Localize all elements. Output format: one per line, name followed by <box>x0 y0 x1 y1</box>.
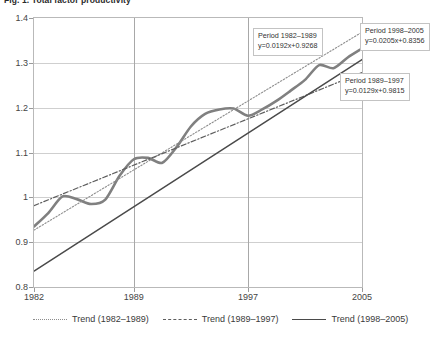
y-tick-label: 0.9 <box>0 237 28 247</box>
legend-swatch-solid <box>292 316 326 323</box>
series-line <box>34 32 362 230</box>
annotation-ann-1998-2005: Period 1998–2005y=0.0205x+0.8356 <box>360 23 430 51</box>
annotation-period-label: Period 1982–1989 <box>258 31 318 41</box>
annotation-period-label: Period 1998–2005 <box>365 26 425 36</box>
legend-swatch-dash-dot <box>163 316 197 323</box>
x-tick-mark <box>248 288 249 292</box>
plot-inner <box>34 18 362 287</box>
series-line <box>34 60 362 271</box>
y-tick-label: 1 <box>0 192 28 202</box>
annotation-equation: y=0.0205x+0.8356 <box>365 36 425 46</box>
figure-title: Fig. 1. Total factor productivity <box>4 0 131 5</box>
legend-label: Trend (1989–1997) <box>202 314 279 324</box>
y-tick-label: 1.4 <box>0 13 28 23</box>
x-tick-mark <box>362 288 363 292</box>
annotation-ann-1989-1997: Period 1989–1997y=0.0129x+0.9815 <box>340 73 410 101</box>
y-tick-label: 0.8 <box>0 282 28 292</box>
x-tick-label: 1997 <box>238 292 258 302</box>
legend-swatch-dotted <box>33 316 67 323</box>
annotation-equation: y=0.0129x+0.9815 <box>345 86 405 96</box>
y-tick-label: 1.2 <box>0 103 28 113</box>
x-tick-label: 1982 <box>24 292 44 302</box>
series-line <box>34 73 362 206</box>
x-tick-label: 1989 <box>124 292 144 302</box>
x-tick-mark <box>134 288 135 292</box>
legend-item-3[interactable]: Trend (1998–2005) <box>292 314 408 324</box>
chart-legend: Trend (1982–1989)Trend (1989–1997)Trend … <box>33 311 423 327</box>
legend-label: Trend (1982–1989) <box>72 314 149 324</box>
chart-canvas <box>34 18 362 287</box>
annotation-ann-1982-1989: Period 1982–1989y=0.0192x+0.9268 <box>253 28 323 56</box>
x-tick-label: 2005 <box>352 292 372 302</box>
annotation-period-label: Period 1989–1997 <box>345 76 405 86</box>
annotation-equation: y=0.0192x+0.9268 <box>258 41 318 51</box>
y-tick-label: 1.1 <box>0 148 28 158</box>
legend-item-2[interactable]: Trend (1989–1997) <box>163 314 279 324</box>
legend-item-1[interactable]: Trend (1982–1989) <box>33 314 149 324</box>
plot-area <box>33 17 363 288</box>
series-line <box>34 48 362 226</box>
y-tick-label: 1.3 <box>0 58 28 68</box>
x-tick-mark <box>34 288 35 292</box>
figure-root: Fig. 1. Total factor productivity 0.80.9… <box>0 0 439 339</box>
legend-label: Trend (1998–2005) <box>331 314 408 324</box>
